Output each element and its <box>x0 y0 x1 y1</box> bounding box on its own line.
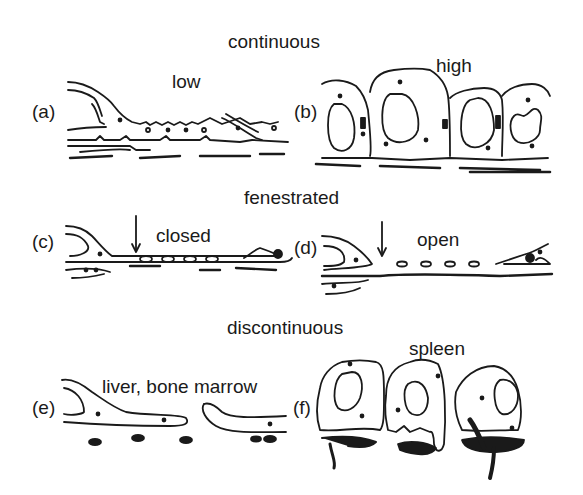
capillary-illustrations <box>0 0 583 495</box>
panel-c-drawing <box>66 216 292 278</box>
panel-d-drawing <box>322 222 552 294</box>
panel-b-drawing <box>316 69 550 173</box>
panel-e-drawing <box>62 380 286 445</box>
panel-a-drawing <box>68 82 288 158</box>
panel-f-drawing <box>317 360 524 478</box>
